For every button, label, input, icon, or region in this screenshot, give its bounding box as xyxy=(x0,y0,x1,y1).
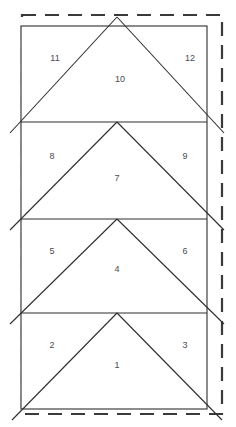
piece-label-12: 12 xyxy=(185,53,195,63)
piece-label-4: 4 xyxy=(114,264,119,274)
piece-label-2: 2 xyxy=(49,340,54,350)
piece-label-1: 1 xyxy=(114,360,119,370)
piece-label-11: 11 xyxy=(50,53,59,63)
piece-label-10: 10 xyxy=(115,74,125,84)
piece-label-3: 3 xyxy=(182,340,187,350)
piece-label-6: 6 xyxy=(182,246,187,256)
pattern-diagram-svg: 11 12 10 8 9 7 5 6 4 2 3 1 xyxy=(0,0,236,427)
diagram-canvas: 11 12 10 8 9 7 5 6 4 2 3 1 xyxy=(0,0,236,427)
piece-label-9: 9 xyxy=(182,151,187,161)
piece-label-8: 8 xyxy=(49,151,54,161)
piece-label-5: 5 xyxy=(49,246,54,256)
piece-label-7: 7 xyxy=(114,173,119,183)
